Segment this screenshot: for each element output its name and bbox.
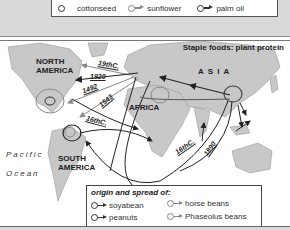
bottom-legend: origin and spread of: soyabean peanuts h… [86, 185, 262, 227]
legend-item-cottonseed: cottonseed [58, 4, 116, 13]
ocean-label-line1: Pacific [6, 150, 44, 159]
legend-item-horse-beans: horse beans [167, 199, 229, 208]
circle-icon [58, 5, 65, 12]
label-africa: AFRICA [129, 103, 159, 112]
circle-arrow-icon [197, 5, 210, 12]
label-north-america: NORTH AMERICA [36, 57, 76, 75]
world-map: Staple foods: plant protein NORTH AMERIC… [0, 40, 290, 230]
legend-label: sunflower [147, 4, 181, 13]
top-band: cottonseed sunflower palm oil [0, 0, 290, 36]
legend-title: origin and spread of: [91, 188, 171, 197]
circle-arrow-icon [167, 213, 180, 220]
bottom-band [0, 226, 290, 230]
circle-arrow-icon [167, 200, 180, 207]
circle-arrow-icon [128, 5, 141, 12]
ocean-label-line2: Ocean [6, 169, 40, 178]
legend-item-soyabean: soyabean [91, 201, 144, 210]
label-asia: A S I A [198, 67, 230, 76]
circle-arrow-icon [91, 214, 104, 221]
legend-label: palm oil [216, 4, 244, 13]
legend-item-palm-oil: palm oil [197, 4, 244, 13]
map-title: Staple foods: plant protein [183, 43, 284, 52]
divider [0, 36, 290, 37]
legend-item-sunflower: sunflower [128, 4, 181, 13]
date-label: 1920 [90, 73, 106, 80]
legend-item-peanuts: peanuts [91, 213, 137, 222]
legend-label: cottonseed [77, 4, 116, 13]
label-south-america: SOUTH AMERICA [58, 154, 98, 172]
legend-item-phaseolus-beans: Phaseolus beans [167, 212, 246, 221]
top-legend: cottonseed sunflower palm oil [51, 0, 278, 17]
circle-arrow-icon [91, 202, 104, 209]
